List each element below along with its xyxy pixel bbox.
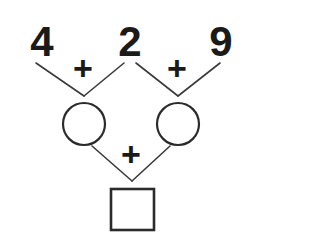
answer-slot-square[interactable] xyxy=(111,189,154,230)
answer-slot-circle-left[interactable] xyxy=(63,103,105,145)
number-bond-diagram: 4 2 9 + + + xyxy=(0,0,328,233)
operand-row: 4 2 9 xyxy=(30,18,232,65)
operand-digit-2: 2 xyxy=(118,18,141,65)
plus-operator-right: + xyxy=(167,49,187,87)
operand-digit-3: 9 xyxy=(209,18,232,65)
answer-slot-circle-right[interactable] xyxy=(157,103,199,145)
operand-digit-1: 4 xyxy=(30,18,54,65)
math-worksheet-canvas: 4 2 9 + + + xyxy=(0,0,328,233)
plus-operator-bottom: + xyxy=(121,135,141,173)
plus-operator-left: + xyxy=(73,49,93,87)
final-slot-group xyxy=(111,189,154,230)
